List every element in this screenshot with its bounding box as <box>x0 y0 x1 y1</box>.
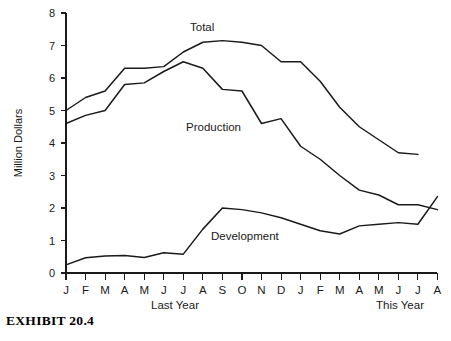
y-tick-label: 4 <box>49 137 55 149</box>
series-line-production <box>66 62 437 210</box>
x-tick-label: O <box>237 284 246 296</box>
x-tick-label: M <box>374 284 384 296</box>
x-tick-label-group: JFMAMJJASONDJFMAMJJA <box>63 284 441 296</box>
y-tick-label: 5 <box>49 105 55 117</box>
x-tick-label: J <box>298 284 304 296</box>
x-tick-label: A <box>355 284 363 296</box>
y-tick-label: 7 <box>49 40 55 52</box>
x-tick-group <box>66 273 437 280</box>
x-tick-label: A <box>199 284 207 296</box>
series-label-production: Production <box>186 121 241 133</box>
exhibit-caption: EXHIBIT 20.4 <box>6 313 94 329</box>
x-tick-label: M <box>335 284 345 296</box>
x-tick-label: J <box>395 284 401 296</box>
x-tick-label: J <box>161 284 167 296</box>
x-tick-label: J <box>63 284 69 296</box>
x-tick-label: F <box>82 284 89 296</box>
x-tick-label: F <box>317 284 324 296</box>
period-label-last-year: Last Year <box>151 299 199 311</box>
y-tick-label: 3 <box>49 170 55 182</box>
line-chart: 012345678 JFMAMJJASONDJFMAMJJA Million D… <box>0 0 451 341</box>
x-tick-label: J <box>180 284 186 296</box>
period-label-group: Last YearThis Year <box>151 299 424 311</box>
x-tick-label: D <box>277 284 285 296</box>
series-label-total: Total <box>190 21 214 33</box>
x-tick-label: M <box>139 284 149 296</box>
y-tick-label: 0 <box>49 267 55 279</box>
series-line-total <box>66 41 418 155</box>
y-tick-label: 1 <box>49 235 55 247</box>
x-tick-label: M <box>100 284 110 296</box>
y-tick-label-group: 012345678 <box>49 7 55 279</box>
period-label-this-year: This Year <box>376 299 424 311</box>
y-tick-label: 6 <box>49 72 55 84</box>
y-tick-label: 2 <box>49 202 55 214</box>
y-tick-label: 8 <box>49 7 55 19</box>
exhibit-figure: 012345678 JFMAMJJASONDJFMAMJJA Million D… <box>0 0 451 341</box>
x-tick-label: A <box>434 284 442 296</box>
x-tick-label: N <box>257 284 265 296</box>
x-tick-label: A <box>121 284 129 296</box>
series-label-development: Development <box>211 230 280 242</box>
y-axis-title: Million Dollars <box>12 108 24 177</box>
x-tick-label: J <box>415 284 421 296</box>
y-tick-group <box>61 13 66 273</box>
x-tick-label: S <box>219 284 227 296</box>
